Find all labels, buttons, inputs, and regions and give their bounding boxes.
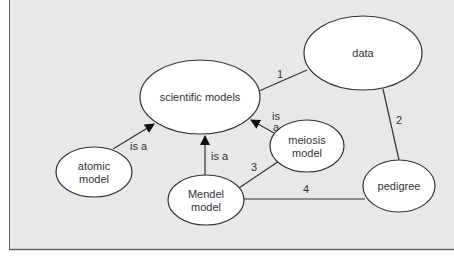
node-mendel-model: Mendel model <box>168 175 244 225</box>
node-label: pedigree <box>378 180 421 192</box>
edge-label-1: 1 <box>277 68 283 80</box>
node-label-line2: model <box>79 173 109 185</box>
node-label: data <box>352 47 374 59</box>
node-label-line1: atomic <box>78 160 111 172</box>
concept-map: 1 2 3 4 is a is a is a scie <box>0 0 454 257</box>
node-label: scientific models <box>160 91 241 103</box>
edge-label-atomic-is-a: is a <box>130 140 148 152</box>
node-atomic-model: atomic model <box>56 147 132 197</box>
node-data: data <box>304 16 422 90</box>
node-label-line1: Mendel <box>188 188 224 200</box>
edge-label-4: 4 <box>303 183 309 195</box>
edge-label-3: 3 <box>251 161 257 173</box>
node-scientific-models: scientific models <box>140 60 260 134</box>
node-label-line2: model <box>292 147 322 159</box>
node-label-line2: model <box>191 201 221 213</box>
edge-label-mendel-is-a: is a <box>211 150 229 162</box>
node-label-line1: meiosis <box>288 134 326 146</box>
node-pedigree: pedigree <box>363 160 435 212</box>
node-meiosis-model: meiosis model <box>270 120 344 172</box>
edge-label-2: 2 <box>396 114 402 126</box>
